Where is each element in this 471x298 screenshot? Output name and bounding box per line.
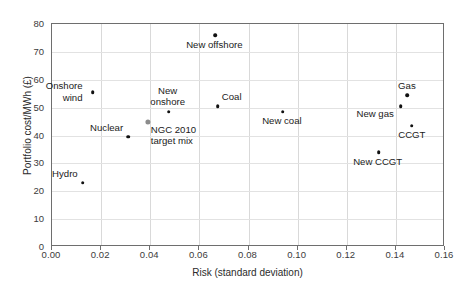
data-point	[399, 104, 403, 108]
data-point	[377, 150, 381, 154]
data-point-label: Coal	[222, 91, 242, 103]
x-tick-mark	[198, 246, 199, 250]
y-axis-title: Portfolio cost/MWh (£)	[22, 26, 33, 226]
x-tick-label: 0.14	[385, 249, 404, 260]
data-point	[405, 93, 409, 97]
scatter-chart-figure: 0.000.020.040.060.080.100.120.140.16 010…	[0, 0, 471, 298]
data-point	[281, 110, 285, 114]
gridline-vertical	[347, 24, 348, 245]
data-point-label: New coal	[262, 115, 301, 127]
gridline-horizontal	[52, 80, 443, 81]
data-point-label: New CCGT	[353, 156, 402, 168]
gridline-horizontal	[52, 136, 443, 137]
data-point-label: New onshore	[150, 85, 185, 108]
x-tick-label: 0.02	[91, 249, 110, 260]
x-tick-label: 0.06	[189, 249, 208, 260]
y-tick-label: 0	[0, 241, 44, 252]
data-point-label: CCGT	[398, 129, 425, 141]
x-axis-title: Risk (standard deviation)	[51, 267, 444, 278]
data-point-label: Hydro	[52, 168, 78, 180]
gridline-horizontal	[52, 191, 443, 192]
plot-area	[51, 23, 444, 246]
x-tick-label: 0.04	[140, 249, 159, 260]
gridline-horizontal	[52, 52, 443, 53]
data-point-label: Nuclear	[90, 122, 123, 134]
data-point-label: NGC 2010 target mix	[151, 124, 196, 147]
data-point	[91, 90, 95, 94]
data-point	[410, 124, 414, 128]
x-tick-mark	[444, 246, 445, 250]
x-tick-mark	[100, 246, 101, 250]
gridline-vertical	[298, 24, 299, 245]
data-point	[126, 135, 130, 139]
x-tick-label: 0.12	[336, 249, 355, 260]
data-point-label: New gas	[356, 108, 393, 120]
x-tick-label: 0.16	[435, 249, 454, 260]
x-tick-mark	[51, 246, 52, 250]
data-point	[167, 110, 171, 114]
gridline-vertical	[396, 24, 397, 245]
gridline-vertical	[199, 24, 200, 245]
x-tick-label: 0.10	[287, 249, 306, 260]
gridline-horizontal	[52, 219, 443, 220]
data-point-label: Onshore wind	[46, 80, 83, 103]
x-tick-mark	[395, 246, 396, 250]
x-tick-mark	[149, 246, 150, 250]
data-point	[214, 33, 218, 37]
gridline-vertical	[249, 24, 250, 245]
data-point-label: New offshore	[186, 39, 242, 51]
data-point-label: Gas	[398, 80, 416, 92]
x-tick-label: 0.08	[238, 249, 257, 260]
data-point	[81, 181, 85, 185]
gridline-vertical	[101, 24, 102, 245]
x-tick-mark	[248, 246, 249, 250]
data-point	[216, 104, 220, 108]
x-tick-label: 0.00	[42, 249, 61, 260]
x-tick-mark	[346, 246, 347, 250]
x-tick-mark	[297, 246, 298, 250]
